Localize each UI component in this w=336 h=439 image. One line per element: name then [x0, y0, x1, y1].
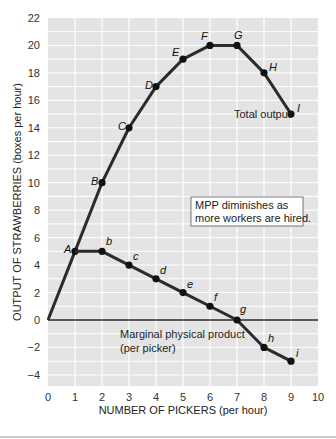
point-label: E	[172, 46, 180, 58]
data-point	[287, 358, 294, 365]
y-tick-label: 20	[28, 39, 40, 51]
annotation-line1: MPP diminishes as	[195, 199, 289, 211]
y-tick-label: 22	[28, 12, 40, 24]
y-tick-label: 2	[34, 287, 40, 299]
chart: 2220181614121086420−2−4 012345678910 OUT…	[0, 0, 336, 439]
data-point	[98, 179, 105, 186]
x-tick-label: 4	[153, 391, 159, 403]
y-tick-label: 4	[34, 259, 40, 271]
annotation-box: MPP diminishes as more workers are hired…	[191, 197, 311, 226]
point-label: A	[63, 243, 71, 255]
point-label: H	[269, 61, 277, 73]
data-point	[125, 124, 132, 131]
point-label: b	[106, 235, 112, 247]
x-tick-label: 6	[207, 391, 213, 403]
y-tick-label: 12	[28, 149, 40, 161]
point-label: G	[234, 29, 243, 41]
x-tick-label: 7	[234, 391, 240, 403]
y-tick-label: 0	[34, 314, 40, 326]
x-axis-label: NUMBER OF PICKERS (per hour)	[99, 404, 268, 416]
y-axis-label: OUTPUT OF STRAWBERRIES (boxes per hour)	[11, 83, 23, 321]
data-point	[206, 303, 213, 310]
mpp-label-line2: (per picker)	[120, 342, 176, 354]
data-point	[233, 316, 240, 323]
y-tick-label: 14	[28, 122, 40, 134]
point-label: C	[118, 120, 126, 132]
y-tick-label: −2	[27, 341, 40, 353]
x-tick-label: 5	[180, 391, 186, 403]
point-label: e	[187, 278, 193, 290]
x-tick-label: 9	[288, 391, 294, 403]
data-point	[125, 261, 132, 268]
x-tick-label: 10	[312, 391, 324, 403]
y-axis-ticks: 2220181614121086420−2−4	[27, 12, 40, 381]
point-label: B	[91, 175, 98, 187]
y-tick-label: 10	[28, 177, 40, 189]
data-point	[260, 344, 267, 351]
point-label: D	[145, 79, 153, 91]
point-label: g	[240, 303, 247, 315]
y-tick-label: 8	[34, 204, 40, 216]
data-point	[179, 56, 186, 63]
total-output-label: Total output	[234, 108, 291, 120]
x-tick-label: 2	[99, 391, 105, 403]
point-label: I	[297, 102, 300, 114]
data-point	[260, 69, 267, 76]
point-label: d	[160, 264, 167, 276]
x-axis-ticks: 012345678910	[45, 391, 324, 403]
data-point	[98, 248, 105, 255]
data-point	[206, 42, 213, 49]
x-tick-label: 8	[261, 391, 267, 403]
x-tick-label: 0	[45, 391, 51, 403]
point-label: c	[133, 250, 139, 262]
x-tick-label: 3	[126, 391, 132, 403]
data-point	[152, 275, 159, 282]
data-point	[152, 83, 159, 90]
mpp-label-line1: Marginal physical product	[120, 328, 245, 340]
y-tick-label: 16	[28, 94, 40, 106]
y-tick-label: 6	[34, 232, 40, 244]
point-label: h	[268, 332, 274, 344]
y-tick-label: 18	[28, 67, 40, 79]
data-point	[179, 289, 186, 296]
y-tick-label: −4	[27, 369, 40, 381]
annotation-line2: more workers are hired.	[195, 212, 311, 224]
data-point	[233, 42, 240, 49]
x-tick-label: 1	[72, 391, 78, 403]
